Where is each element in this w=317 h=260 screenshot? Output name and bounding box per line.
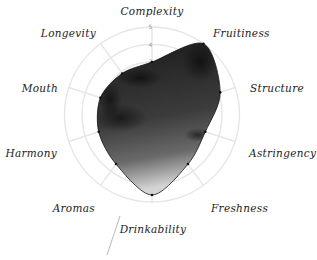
data-point	[99, 96, 102, 99]
axis-label-structure: Structure	[250, 82, 304, 94]
radar-chart: 12345 ComplexityFruitinessStructureAstri…	[0, 0, 317, 260]
axis-label-aromas: Aromas	[52, 202, 96, 214]
tick-label: 5	[149, 23, 153, 30]
axis-label-astringency: Astringency	[248, 147, 317, 159]
data-point	[121, 72, 124, 75]
data-point	[202, 42, 205, 45]
axis-label-drinkability: Drinkability	[119, 223, 187, 235]
axis-label-fruitiness: Fruitiness	[212, 27, 270, 39]
axis-label-freshness: Freshness	[210, 202, 268, 214]
data-point	[115, 163, 118, 166]
data-point	[219, 91, 222, 94]
axis-label-longevity: Longevity	[40, 27, 97, 39]
data-point	[151, 61, 154, 64]
axis-label-harmony: Harmony	[4, 147, 57, 159]
data-point	[97, 131, 100, 134]
tick-label: 4	[149, 41, 153, 48]
axis-label-complexity: Complexity	[120, 5, 184, 17]
data-point	[204, 131, 207, 134]
data-point	[187, 163, 190, 166]
axis-label-mouth: Mouth	[21, 82, 58, 94]
pointer-line	[107, 216, 120, 255]
data-point	[151, 194, 154, 197]
